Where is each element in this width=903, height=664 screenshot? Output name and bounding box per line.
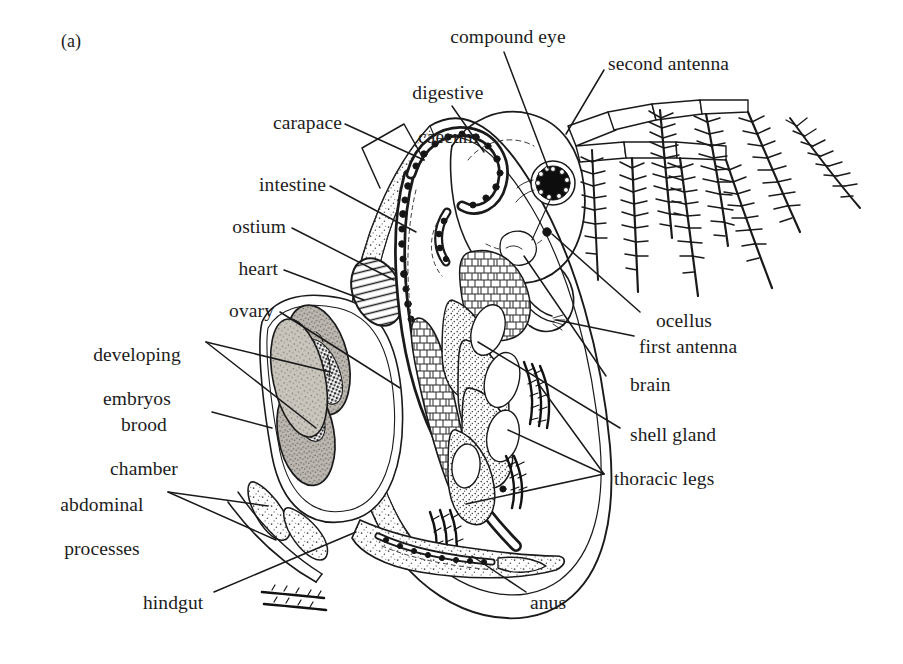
label-carapace: carapace [228,112,342,134]
second-antenna [568,100,860,296]
label-digestive-caecum-line1: digestive [412,82,483,103]
label-hindgut: hindgut [143,592,243,614]
label-compound-eye: compound eye [432,26,584,48]
label-thoracic-legs: thoracic legs [614,468,754,490]
label-ovary: ovary [182,300,274,322]
label-abdominal-processes-line1: abdominal [60,494,143,515]
figure-canvas: (a) carapace intestine ostium heart ovar… [0,0,903,664]
antenna-setae [581,110,860,296]
ocellus [543,228,551,236]
label-anus: anus [530,592,600,614]
panel-id: (a) [61,31,81,52]
label-shell-gland: shell gland [630,424,760,446]
label-second-antenna: second antenna [608,53,768,75]
label-abdominal-processes: abdominal processes [20,472,164,582]
label-heart: heart [206,258,278,280]
label-abdominal-processes-line2: processes [64,538,140,559]
label-intestine: intestine [216,174,326,196]
label-developing-embryos-line1: developing [93,344,181,365]
label-first-antenna: first antenna [639,336,789,358]
label-digestive-caecum-line2: caecum [418,126,478,147]
label-digestive-caecum: digestive caecum [378,60,498,170]
label-ostium: ostium [198,216,286,238]
label-brain: brain [630,374,710,396]
label-ocellus: ocellus [656,310,746,332]
label-brood-chamber-line1: brood [121,414,167,435]
